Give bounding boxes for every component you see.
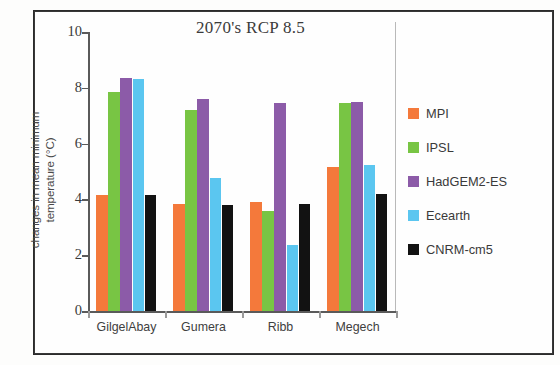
bar-gumera-ecearth	[210, 178, 222, 311]
legend-label: MPI	[426, 106, 449, 121]
legend-swatch-icon	[408, 210, 419, 221]
legend-swatch-icon	[408, 244, 419, 255]
bar-gumera-mpi	[173, 204, 185, 311]
bar-gilgelabay-ecearth	[133, 79, 145, 311]
legend-swatch-icon	[408, 108, 419, 119]
bar-gilgelabay-ipsl	[108, 92, 120, 311]
bar-ribb-cnrm-cm5	[299, 204, 311, 311]
bar-ribb-ecearth	[287, 245, 299, 311]
legend-item-cnrm-cm5: CNRM-cm5	[408, 232, 507, 266]
bar-gilgelabay-mpi	[96, 195, 108, 311]
figure-canvas: 0246810 changes in mean minimumtemperatu…	[0, 0, 560, 365]
bar-megech-ipsl	[339, 103, 351, 311]
bar-megech-ecearth	[364, 165, 376, 311]
bar-ribb-ipsl	[262, 211, 274, 311]
bar-megech-cnrm-cm5	[376, 194, 388, 311]
legend-swatch-icon	[408, 142, 419, 153]
legend-item-ipsl: IPSL	[408, 130, 507, 164]
bar-megech-mpi	[327, 167, 339, 311]
x-category-label-megech: Megech	[298, 320, 418, 334]
bar-ribb-hadgem2-es	[274, 103, 286, 311]
legend-swatch-icon	[408, 176, 419, 187]
legend-label: HadGEM2-ES	[426, 174, 507, 189]
legend-label: IPSL	[426, 140, 454, 155]
bar-gilgelabay-cnrm-cm5	[145, 195, 157, 311]
bar-gumera-hadgem2-es	[197, 99, 209, 311]
bar-gumera-cnrm-cm5	[222, 205, 234, 311]
bar-gumera-ipsl	[185, 110, 197, 311]
legend: MPIIPSLHadGEM2-ESEcearthCNRM-cm5	[408, 96, 507, 266]
legend-item-ecearth: Ecearth	[408, 198, 507, 232]
bar-megech-hadgem2-es	[351, 102, 363, 311]
bar-ribb-mpi	[250, 202, 262, 311]
legend-item-hadgem2-es: HadGEM2-ES	[408, 164, 507, 198]
legend-label: CNRM-cm5	[426, 242, 493, 257]
legend-item-mpi: MPI	[408, 96, 507, 130]
legend-label: Ecearth	[426, 208, 470, 223]
bar-gilgelabay-hadgem2-es	[120, 78, 132, 311]
